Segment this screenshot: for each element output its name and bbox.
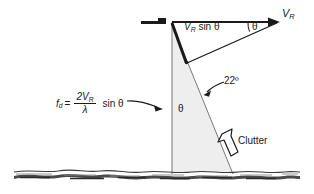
diagram-canvas xyxy=(0,0,314,194)
formula-lhs-subscript: d xyxy=(59,102,63,109)
ground-terrain xyxy=(14,170,300,180)
formula-fraction: 2VR λ xyxy=(74,92,95,115)
theta-angle-arc-top xyxy=(248,22,250,32)
label-clutter: Clutter xyxy=(238,136,267,146)
formula-leader-arrow xyxy=(127,101,163,112)
formula-trailing-term: sin θ xyxy=(103,99,124,109)
formula-numerator-subscript: R xyxy=(89,96,94,103)
formula-numerator: 2VR xyxy=(74,92,95,103)
formula-denominator: λ xyxy=(81,104,90,115)
label-theta-inner: θ xyxy=(178,104,184,114)
label-depression-angle: 22º xyxy=(224,76,239,86)
label-theta-top: θ xyxy=(252,22,258,32)
vr-subscript: R xyxy=(289,12,294,21)
depression-angle-leader-arrow xyxy=(204,82,225,97)
label-vr-sin-theta: VR sin θ xyxy=(184,22,220,32)
formula-lhs: fd xyxy=(56,99,63,109)
formula-equals: = xyxy=(65,99,71,109)
vr-sin-subscript: R xyxy=(191,26,196,33)
vr-sin-rest: sin θ xyxy=(198,21,219,32)
antenna-icon xyxy=(141,18,166,24)
radar-clutter-diagram: VR VR sin θ θ θ 22º Clutter fd = 2VR λ s… xyxy=(0,0,314,194)
label-velocity-vector-vr: VR xyxy=(282,8,295,19)
doppler-frequency-formula: fd = 2VR λ sin θ xyxy=(56,92,124,115)
